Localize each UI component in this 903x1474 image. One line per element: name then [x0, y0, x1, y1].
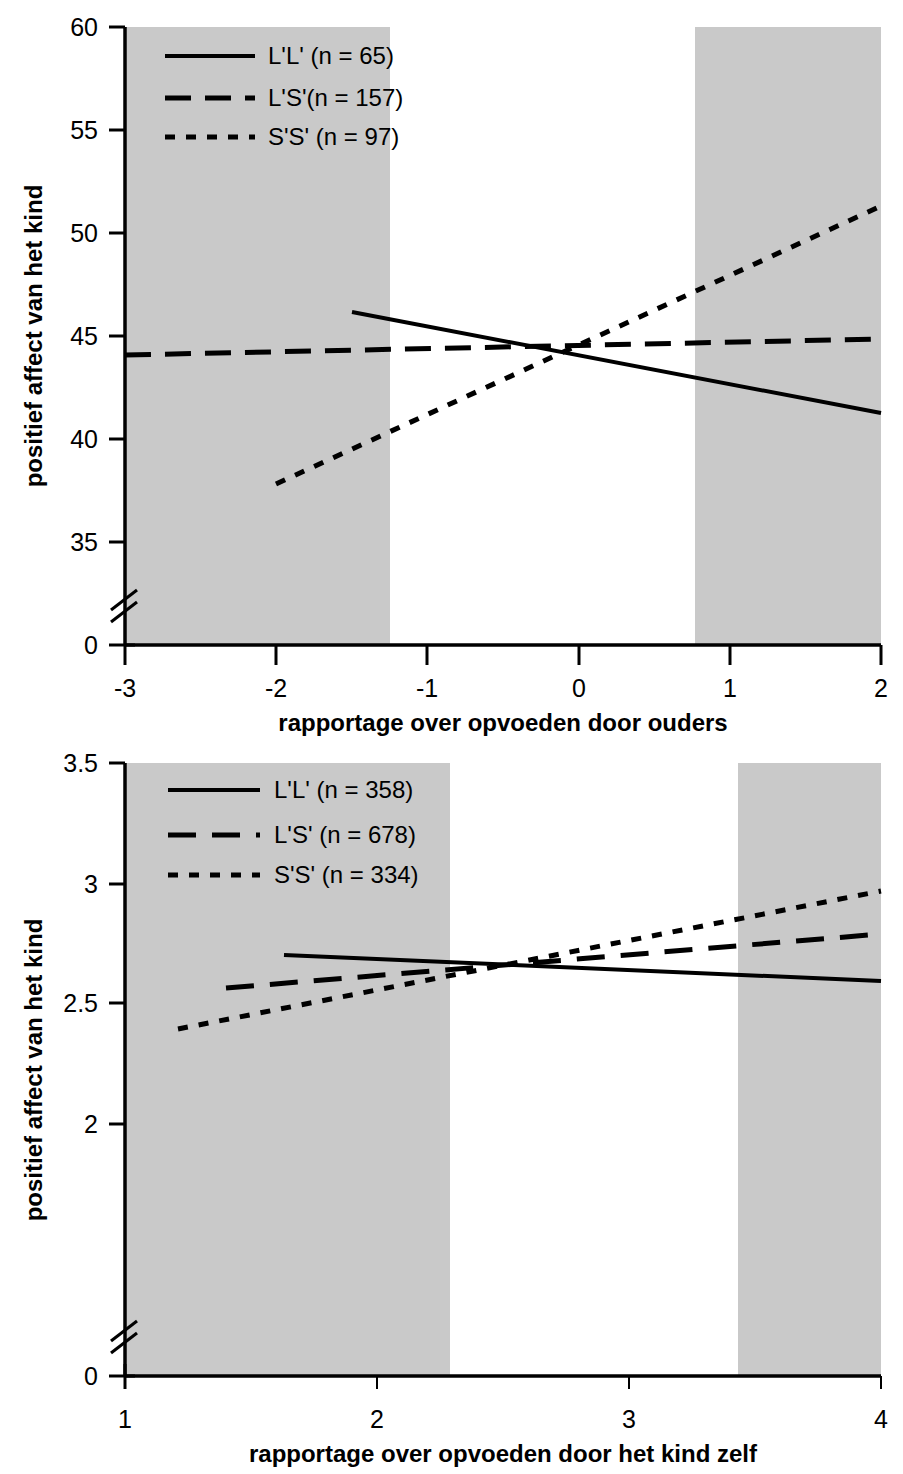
x-tick-label--3-top: -3	[114, 674, 136, 702]
y-tick-label-40-top: 40	[70, 425, 98, 453]
y-tick-label-3.5-bottom: 3.5	[63, 749, 98, 777]
x-tick-label-4-bottom: 4	[874, 1405, 888, 1433]
shaded-band-right-bottom	[738, 763, 881, 1376]
chart-figure-top: 60 55 50 45 40 35 0 -3 -2 -1 0 1 2 posit…	[0, 0, 903, 740]
y-tick-label-2-bottom: 2	[84, 1110, 98, 1138]
y-tick-label-3-bottom: 3	[84, 870, 98, 898]
y-tick-label-2.5-bottom: 2.5	[63, 989, 98, 1017]
legend-label-llprime-top: L'L' (n = 65)	[268, 42, 394, 69]
x-tick-label-3-bottom: 3	[622, 1405, 636, 1433]
x-axis-title-top: rapportage over opvoeden door ouders	[278, 709, 727, 736]
plot-area-top: 60 55 50 45 40 35 0 -3 -2 -1 0 1 2 posit…	[0, 0, 903, 740]
shaded-band-right-top	[695, 27, 881, 645]
shaded-band-left-bottom	[125, 763, 450, 1376]
x-tick-label--2-top: -2	[265, 674, 287, 702]
x-tick-label--1-top: -1	[416, 674, 438, 702]
y-tick-label-0-bottom: 0	[84, 1362, 98, 1390]
y-tick-label-0-top: 0	[84, 631, 98, 659]
x-tick-label-1-top: 1	[723, 674, 737, 702]
plot-area-bottom: 3.5 3 2.5 2 0 1 2 3 4 positief affect va…	[0, 734, 903, 1474]
legend-label-llprime-bottom: L'L' (n = 358)	[274, 776, 413, 803]
y-tick-label-35-top: 35	[70, 528, 98, 556]
y-axis-title-top: positief affect van het kind	[20, 185, 47, 488]
y-tick-label-50-top: 50	[70, 219, 98, 247]
x-tick-label-1-bottom: 1	[118, 1405, 132, 1433]
x-tick-label-0-top: 0	[572, 674, 586, 702]
x-tick-label-2-top: 2	[874, 674, 888, 702]
y-tick-label-60-top: 60	[70, 13, 98, 41]
y-axis-title-bottom: positief affect van het kind	[20, 919, 47, 1222]
y-tick-label-55-top: 55	[70, 116, 98, 144]
x-axis-title-bottom: rapportage over opvoeden door het kind z…	[249, 1440, 758, 1467]
legend-label-ssprime-top: S'S' (n = 97)	[268, 123, 399, 150]
chart-figure-bottom: 3.5 3 2.5 2 0 1 2 3 4 positief affect va…	[0, 734, 903, 1474]
y-tick-label-45-top: 45	[70, 322, 98, 350]
legend-label-ssprime-bottom: S'S' (n = 334)	[274, 861, 419, 888]
shaded-band-left-top	[125, 27, 390, 645]
legend-label-lsprime-top: L'S'(n = 157)	[268, 84, 403, 111]
x-tick-label-2-bottom: 2	[370, 1405, 384, 1433]
legend-label-lsprime-bottom: L'S' (n = 678)	[274, 821, 416, 848]
